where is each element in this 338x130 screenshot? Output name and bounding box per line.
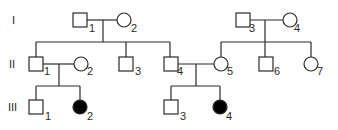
generation-label-II: II (9, 58, 15, 70)
individual-I-3-male (236, 13, 250, 27)
individual-II-2-female (74, 57, 88, 71)
individual-II-1-male (29, 57, 43, 71)
individual-label-III-2: 2 (87, 110, 93, 122)
individual-label-II-4: 4 (177, 65, 183, 77)
individual-label-I-2: 2 (131, 22, 137, 34)
individual-label-I-3: 3 (249, 22, 255, 34)
individual-label-II-2: 2 (87, 65, 93, 77)
individual-III-4-female-affected (213, 100, 227, 114)
individual-I-1-male (73, 13, 87, 27)
individual-label-II-3: 3 (135, 65, 141, 77)
individual-label-I-4: 4 (294, 22, 300, 34)
individual-II-6-male (259, 57, 273, 71)
individual-I-2-female (117, 13, 131, 27)
individual-label-III-4: 4 (226, 110, 232, 122)
individual-III-2-female-affected (73, 100, 87, 114)
individual-label-II-7: 7 (317, 65, 323, 77)
individual-label-II-6: 6 (274, 65, 280, 77)
individual-II-3-male (119, 57, 133, 71)
individual-II-5-female (214, 57, 228, 71)
individual-label-III-1: 1 (45, 110, 51, 122)
individual-label-II-5: 5 (227, 65, 233, 77)
individual-label-I-1: 1 (89, 22, 95, 34)
individual-II-7-female (304, 57, 318, 71)
pedigree-chart: I II III 1 2 3 4 1 2 3 4 5 6 7 1 2 (0, 0, 338, 130)
generation-label-I: I (12, 14, 15, 26)
individual-III-1-male (29, 100, 43, 114)
generation-label-III: III (8, 101, 17, 113)
individual-label-II-1: 1 (44, 65, 50, 77)
individual-label-III-3: 3 (180, 110, 186, 122)
individual-II-4-male (164, 57, 178, 71)
individual-III-3-male (164, 100, 178, 114)
